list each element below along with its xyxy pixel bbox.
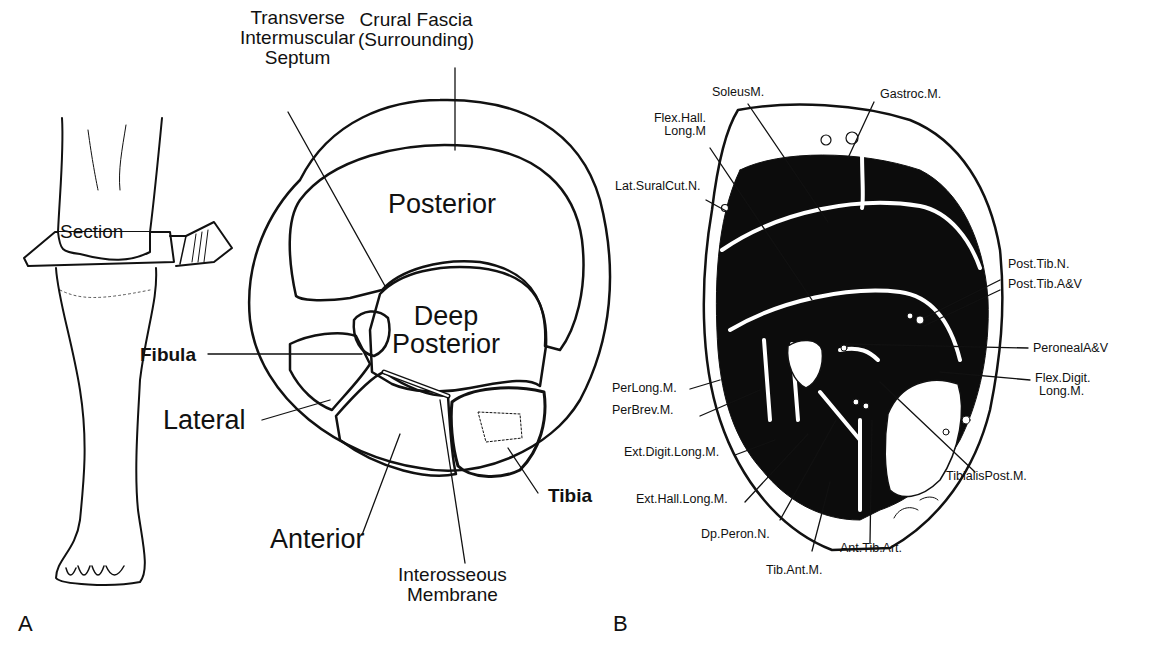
peroneus-brevis-label: PerBrev.M. [612, 404, 674, 417]
septum-label-line: Septum [240, 48, 355, 68]
gastrocnemius-label: Gastroc.M. [880, 88, 941, 101]
membrane-label-line: Membrane [398, 585, 507, 605]
soleus-label: SoleusM. [712, 86, 764, 99]
fdl-label-line: Long.M. [1035, 385, 1091, 398]
membrane-label-line: Interosseous [398, 565, 507, 585]
posterior-tibial-nerve-label: Post.Tib.N. [1008, 258, 1069, 271]
fibula-label: Fibula [140, 345, 196, 365]
crural-fascia-label: Crural Fascia (Surrounding) [358, 10, 474, 50]
fhl-label-line: Long.M [640, 125, 706, 138]
section-label: Section [60, 222, 123, 242]
compartment-cross-section [249, 100, 610, 476]
leg-illustration [24, 118, 232, 585]
fascia-label-line: (Surrounding) [358, 30, 474, 50]
muscle-cross-section [704, 105, 1003, 550]
tibialis-posterior-label: TibialisPost.M. [946, 470, 1027, 483]
septum-label-line: Intermuscular [240, 28, 355, 48]
flexor-hallucis-longus-label: Flex.Hall. Long.M [640, 112, 706, 138]
interosseous-membrane-label: Interosseous Membrane [398, 565, 507, 605]
extensor-digitorum-longus-label: Ext.Digit.Long.M. [624, 446, 719, 459]
anterior-compartment-label: Anterior [270, 525, 365, 553]
posterior-compartment-label: Posterior [388, 190, 496, 218]
extensor-hallucis-longus-label: Ext.Hall.Long.M. [636, 493, 728, 506]
deep-posterior-line: Posterior [392, 330, 500, 358]
septum-label-line: Transverse [240, 8, 355, 28]
panel-a-letter: A [18, 612, 33, 635]
deep-peroneal-nerve-label: Dp.Peron.N. [701, 528, 770, 541]
lateral-compartment-label: Lateral [163, 406, 246, 434]
deep-posterior-line: Deep [392, 302, 500, 330]
deep-posterior-label: Deep Posterior [392, 302, 500, 359]
tibia-label: Tibia [548, 486, 592, 506]
tibialis-anterior-label: Tib.Ant.M. [766, 564, 823, 577]
flexor-digitorum-longus-label: Flex.Digit. Long.M. [1035, 372, 1091, 398]
septum-label: Transverse Intermuscular Septum [240, 8, 355, 68]
lateral-sural-cutaneous-nerve-label: Lat.SuralCut.N. [615, 180, 700, 193]
posterior-tibial-artery-vein-label: Post.Tib.A&V [1008, 278, 1082, 291]
panel-b-letter: B [613, 612, 628, 635]
anterior-tibial-artery-label: Ant.Tib.Art. [840, 542, 902, 555]
peroneus-longus-label: PerLong.M. [612, 382, 677, 395]
peroneal-artery-vein-label: PeronealA&V [1033, 342, 1108, 355]
fascia-label-line: Crural Fascia [358, 10, 474, 30]
figure-artwork [0, 0, 1160, 648]
